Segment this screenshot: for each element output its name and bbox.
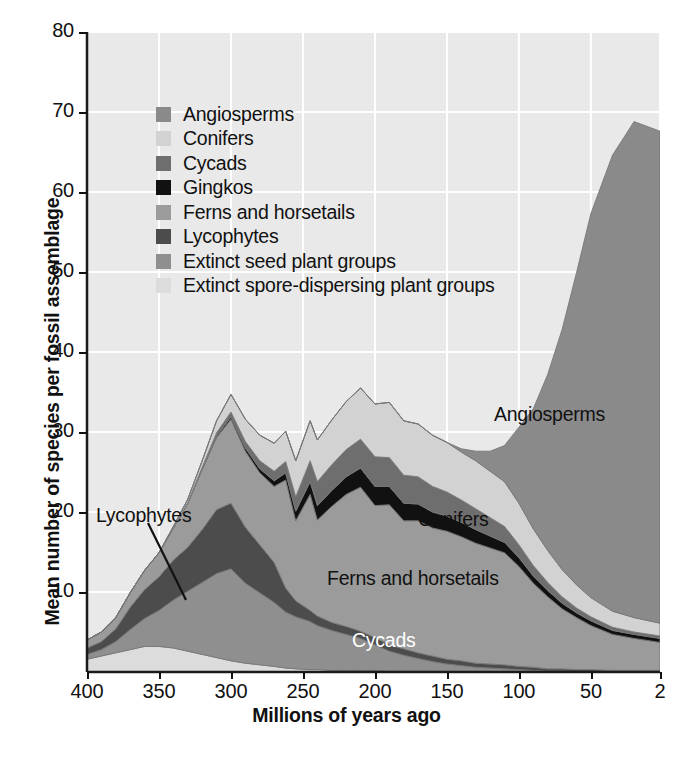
chart-legend: AngiospermsConifersCycadsGingkosFerns an… xyxy=(156,102,495,298)
y-tick-mark xyxy=(79,512,87,514)
legend-item-extinct-seed-plant-groups[interactable]: Extinct seed plant groups xyxy=(156,249,495,274)
legend-item-label: Angiosperms xyxy=(183,105,294,124)
legend-swatch-icon xyxy=(156,229,171,244)
legend-item-label: Extinct seed plant groups xyxy=(183,252,396,271)
x-tick-label: 300 xyxy=(201,680,261,703)
x-tick-label: 2 xyxy=(630,680,690,703)
legend-swatch-icon xyxy=(156,278,171,293)
legend-item-extinct-spore-dispersing-plant-groups[interactable]: Extinct spore-dispersing plant groups xyxy=(156,274,495,299)
y-tick-mark xyxy=(79,432,87,434)
x-tick-mark xyxy=(375,672,377,679)
y-tick-mark xyxy=(79,592,87,594)
x-tick-mark xyxy=(231,672,233,679)
legend-item-label: Extinct spore-dispersing plant groups xyxy=(183,276,495,295)
x-tick-mark xyxy=(87,672,89,679)
x-tick-label: 400 xyxy=(57,680,117,703)
legend-item-cycads[interactable]: Cycads xyxy=(156,151,495,176)
legend-item-ferns-and-horsetails[interactable]: Ferns and horsetails xyxy=(156,200,495,225)
x-tick-label: 350 xyxy=(129,680,189,703)
y-tick-label: 80 xyxy=(30,19,74,42)
legend-item-label: Gingkos xyxy=(183,178,253,197)
x-tick-mark xyxy=(447,672,449,679)
y-tick-mark xyxy=(79,352,87,354)
x-tick-mark xyxy=(591,672,593,679)
y-tick-mark xyxy=(79,272,87,274)
legend-item-label: Conifers xyxy=(183,129,254,148)
annotation-angiosperms: Angiosperms xyxy=(494,403,605,426)
annotation-ferns: Ferns and horsetails xyxy=(327,567,499,590)
legend-swatch-icon xyxy=(156,205,171,220)
y-tick-mark xyxy=(79,32,87,34)
x-tick-label: 100 xyxy=(489,680,549,703)
legend-item-conifers[interactable]: Conifers xyxy=(156,127,495,152)
y-axis-label-wrap: Mean number of species per fossil assemb… xyxy=(12,100,42,600)
x-tick-label: 50 xyxy=(561,680,621,703)
legend-swatch-icon xyxy=(156,131,171,146)
x-tick-mark xyxy=(519,672,521,679)
x-tick-mark xyxy=(159,672,161,679)
annotation-conifers: Conifers xyxy=(418,508,489,531)
legend-swatch-icon xyxy=(156,254,171,269)
annotation-cycads: Cycads xyxy=(352,629,416,652)
legend-item-gingkos[interactable]: Gingkos xyxy=(156,176,495,201)
x-tick-mark xyxy=(303,672,305,679)
legend-item-lycophytes[interactable]: Lycophytes xyxy=(156,225,495,250)
figure: 8070605040302010 40035030025020015010050… xyxy=(0,0,693,760)
legend-swatch-icon xyxy=(156,156,171,171)
legend-item-angiosperms[interactable]: Angiosperms xyxy=(156,102,495,127)
x-tick-label: 150 xyxy=(417,680,477,703)
x-tick-label: 250 xyxy=(273,680,333,703)
y-tick-mark xyxy=(79,192,87,194)
x-axis-label: Millions of years ago xyxy=(0,704,693,727)
legend-item-label: Lycophytes xyxy=(183,227,278,246)
annotation-lycophytes: Lycophytes xyxy=(96,504,191,527)
y-tick-mark xyxy=(79,112,87,114)
y-axis-label: Mean number of species per fossil assemb… xyxy=(41,192,64,632)
legend-item-label: Cycads xyxy=(183,154,247,173)
legend-swatch-icon xyxy=(156,180,171,195)
legend-swatch-icon xyxy=(156,107,171,122)
x-tick-label: 200 xyxy=(345,680,405,703)
legend-item-label: Ferns and horsetails xyxy=(183,203,355,222)
x-tick-mark xyxy=(660,672,662,679)
